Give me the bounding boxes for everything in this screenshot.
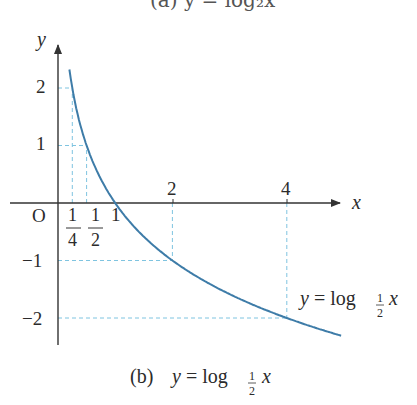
svg-text:2: 2 xyxy=(91,230,100,250)
x-tick-quarter: 1 4 xyxy=(66,205,81,250)
svg-text:2: 2 xyxy=(377,306,383,320)
svg-text:(b): (b) xyxy=(130,365,153,388)
svg-text:x: x xyxy=(388,287,398,309)
y-axis-label: y xyxy=(35,28,46,51)
svg-text:1: 1 xyxy=(249,369,255,383)
svg-text:y = log: y = log xyxy=(298,287,356,310)
svg-text:1: 1 xyxy=(68,205,77,225)
x-tick-1: 1 xyxy=(111,204,121,225)
log-half-chart: y x O 2 1 −1 −2 1 4 1 2 1 2 4 y = log 1 … xyxy=(0,0,417,405)
svg-text:x: x xyxy=(261,365,271,387)
curve-label: y = log 1 2 x xyxy=(298,287,398,320)
y-tick-neg1: −1 xyxy=(22,250,42,271)
origin-label: O xyxy=(32,205,46,226)
y-tick-1: 1 xyxy=(36,133,46,154)
svg-text:1: 1 xyxy=(91,205,100,225)
x-tick-2: 2 xyxy=(167,178,177,199)
y-tick-neg2: −2 xyxy=(22,308,42,329)
y-tick-2: 2 xyxy=(36,76,46,97)
x-tick-4: 4 xyxy=(281,178,291,199)
x-tick-half: 1 2 xyxy=(88,205,103,250)
svg-text:4: 4 xyxy=(68,230,77,250)
svg-text:2: 2 xyxy=(249,384,255,398)
figure-caption: (b) y = log 1 2 x xyxy=(130,365,271,398)
svg-text:y = log: y = log xyxy=(170,365,228,388)
svg-text:1: 1 xyxy=(377,291,383,305)
x-axis-label: x xyxy=(351,191,361,213)
